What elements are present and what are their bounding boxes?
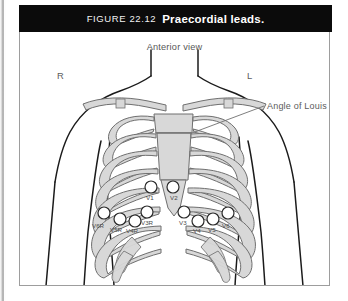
costal-arch-right-2 <box>112 251 133 282</box>
page-edge-highlight <box>4 0 6 301</box>
costal-arch-left-2 <box>209 251 230 282</box>
electrode-label-V1: V1 <box>146 194 154 201</box>
electrode-label-V4R: V4R <box>126 227 139 234</box>
clavicles <box>83 98 266 111</box>
electrode-label-V6: V6 <box>222 222 230 229</box>
electrode-marker-V5R <box>114 213 126 225</box>
electrode-marker-V4R <box>129 215 141 227</box>
sternum-body <box>157 133 191 180</box>
costal-cartilages <box>112 237 230 282</box>
figure-title-bar: FIGURE 22.12 Praecordial leads. <box>19 5 332 32</box>
sc-joint-right <box>116 99 125 108</box>
electrode-marker-V3R <box>141 206 153 218</box>
figure-body: V1V6RV5RV4RV3RV2V3V4V5V6 Anterior view R… <box>19 32 330 286</box>
electrode-marker-V1 <box>145 181 157 193</box>
electrode-label-V5R: V5R <box>110 226 123 233</box>
electrode-label-V3: V3 <box>179 219 187 226</box>
sc-joint-left <box>224 99 233 108</box>
electrode-marker-V2 <box>167 181 179 193</box>
angle-of-louis-label: Angle of Louis <box>267 101 327 111</box>
electrode-label-V4: V4 <box>193 227 201 234</box>
electrode-label-V5: V5 <box>208 226 216 233</box>
electrode-marker-V6 <box>222 207 234 219</box>
electrode-marker-V6R <box>98 207 110 219</box>
electrode-marker-V3 <box>178 206 190 218</box>
electrode-label-V6R: V6R <box>92 222 105 229</box>
electrode-label-V2: V2 <box>170 194 178 201</box>
figure-title: Praecordial leads. <box>162 13 264 25</box>
electrode-marker-V4 <box>192 215 204 227</box>
right-side-label: R <box>57 70 64 81</box>
manubrium <box>154 114 193 133</box>
page-root: FIGURE 22.12 Praecordial leads. <box>0 0 348 301</box>
electrode-marker-V5 <box>207 213 219 225</box>
anterior-view-label: Anterior view <box>147 42 203 52</box>
left-side-label: L <box>247 70 252 81</box>
electrode-label-V3R: V3R <box>141 219 154 226</box>
figure-card: FIGURE 22.12 Praecordial leads. <box>19 5 332 288</box>
anatomy-illustration: V1V6RV5RV4RV3RV2V3V4V5V6 <box>20 32 330 286</box>
figure-number: FIGURE 22.12 <box>87 13 157 24</box>
